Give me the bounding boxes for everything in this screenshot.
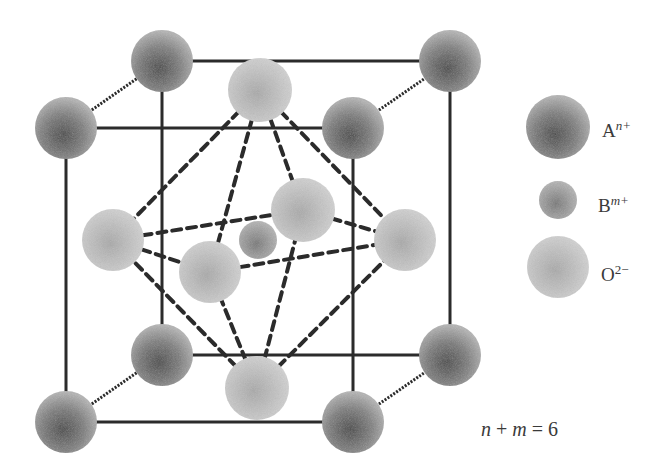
formula-plus: + bbox=[491, 418, 512, 440]
atom-a-back-top-right bbox=[419, 30, 481, 92]
atom-o-right bbox=[374, 209, 436, 271]
formula-var-n: n bbox=[481, 418, 491, 440]
perovskite-structure-diagram bbox=[0, 0, 665, 473]
atom-o-left bbox=[82, 209, 144, 271]
atom-b-center bbox=[239, 221, 277, 259]
charge-balance-formula: n + m = 6 bbox=[481, 418, 558, 441]
legend-symbol-b: B bbox=[598, 195, 611, 216]
formula-value: 6 bbox=[548, 418, 558, 440]
legend-charge-a: n+ bbox=[616, 118, 631, 133]
legend-charge-o: 2− bbox=[615, 262, 629, 277]
atom-o-back bbox=[271, 178, 335, 242]
atom-a-front-top-right bbox=[322, 97, 384, 159]
formula-var-m: m bbox=[512, 418, 526, 440]
legend-atom-b bbox=[539, 181, 577, 219]
legend-charge-b: m+ bbox=[611, 193, 629, 208]
legend-label-b: Bm+ bbox=[598, 193, 629, 217]
legend-label-o: O2− bbox=[601, 262, 629, 286]
atom-a-front-bottom-left bbox=[35, 391, 97, 453]
atom-a-back-top-left bbox=[131, 30, 193, 92]
atom-o-bottom bbox=[225, 356, 289, 420]
legend-atom-a bbox=[526, 95, 590, 159]
atom-o-top bbox=[228, 58, 292, 122]
atom-o-front bbox=[179, 241, 241, 303]
atom-a-front-bottom-right bbox=[322, 391, 384, 453]
legend-label-a: An+ bbox=[602, 118, 631, 142]
atom-a-back-bottom-left bbox=[131, 324, 193, 386]
legend-atoms bbox=[526, 95, 590, 298]
formula-equals: = bbox=[527, 418, 548, 440]
atom-a-back-bottom-right bbox=[419, 324, 481, 386]
legend-atom-o bbox=[527, 236, 589, 298]
legend-symbol-a: A bbox=[602, 120, 616, 141]
atom-a-front-top-left bbox=[35, 97, 97, 159]
legend-symbol-o: O bbox=[601, 264, 615, 285]
